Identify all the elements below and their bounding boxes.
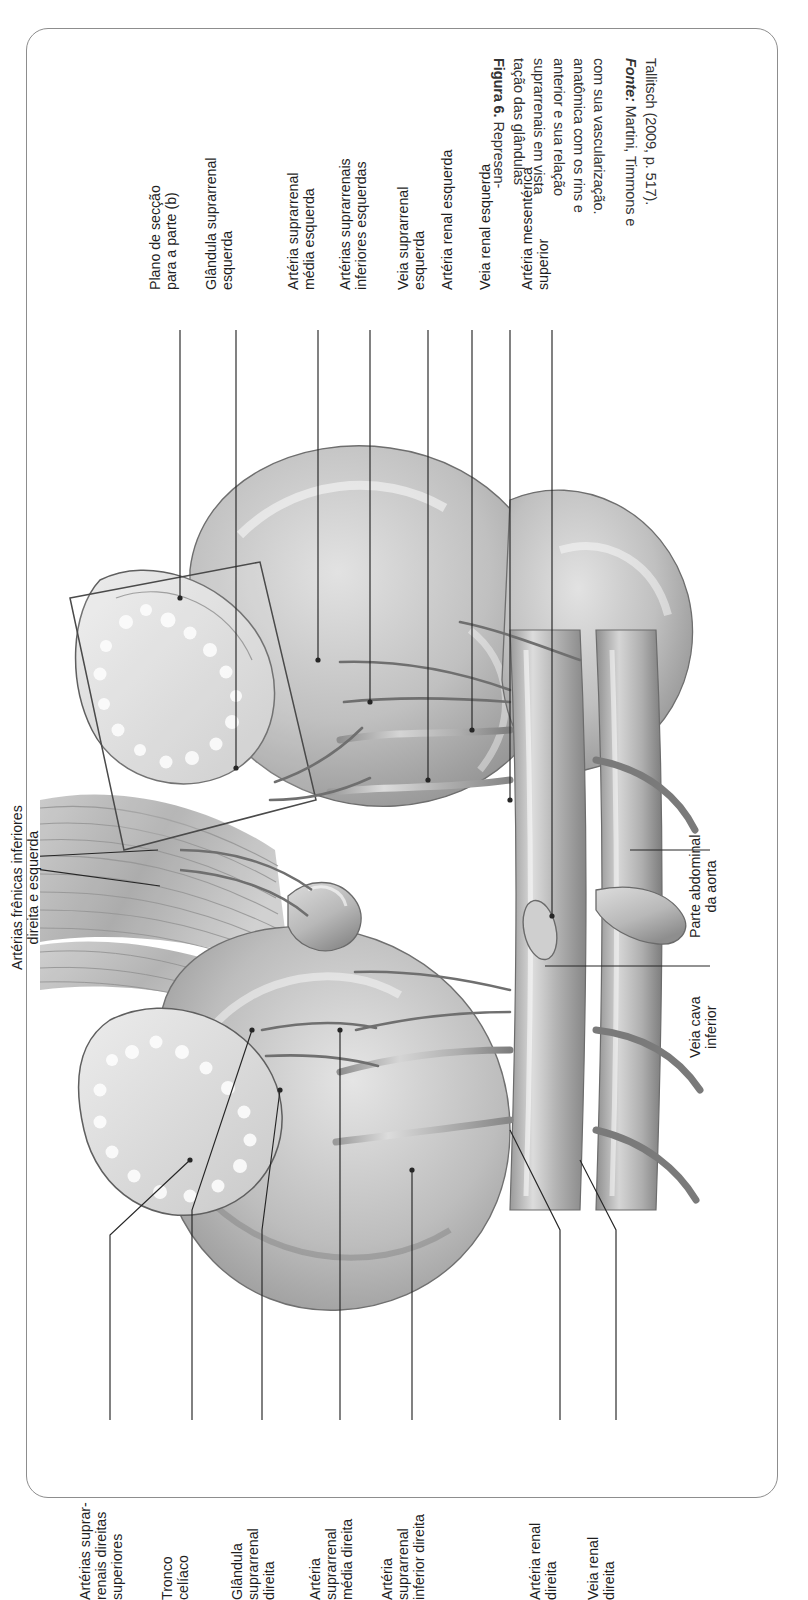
label-arterias-suprarrenais-direitas-superiores-line2: renais direitas bbox=[94, 1502, 110, 1600]
label-arterias-suprarrenais-direitas-superiores-line3: superiores bbox=[110, 1502, 126, 1600]
label-arteria-mesenterica-superior-line1: Artéria mesentérica bbox=[520, 167, 536, 290]
label-arteria-suprarrenal-media-direita-line2: suprarrenal bbox=[324, 1519, 340, 1600]
label-veia-renal-direita-line2: direita bbox=[602, 1537, 618, 1600]
source-line-1-rest: Martini, Timmons e bbox=[623, 102, 639, 226]
label-arteria-suprarrenal-media-esquerda-line2: média esquerda bbox=[302, 173, 318, 291]
label-arteria-suprarrenal-inferior-direita-line3: inferior direita bbox=[412, 1514, 428, 1600]
label-glandula-suprarrenal-esquerda-line1: Glândula suprarrenal bbox=[204, 158, 220, 291]
label-plano-seccao-line2: para a parte (b) bbox=[164, 185, 180, 290]
anatomy-illustration: Plano de secção para a parte (b) Glândul… bbox=[40, 330, 710, 1420]
label-arterias-suprarrenais-inferiores-esquerdas-line2: inferiores esquerdas bbox=[354, 158, 370, 290]
label-veia-suprarrenal-esquerda-line1: Veia suprarrenal bbox=[396, 187, 412, 290]
label-arteria-renal-esquerda-line1: Artéria renal esquerda bbox=[440, 150, 456, 290]
label-arteria-suprarrenal-inferior-direita: Artéria suprarrenal inferior direita bbox=[380, 1514, 428, 1600]
label-arteria-renal-esquerda: Artéria renal esquerda bbox=[440, 150, 456, 290]
label-arterias-frenicas-inferiores-line1: Artérias frênicas inferiores bbox=[10, 805, 26, 970]
label-tronco-celiaco-line1: Tronco bbox=[160, 1555, 176, 1600]
celiac-trunk bbox=[288, 883, 361, 951]
label-veia-renal-esquerda: Veia renal esquerda bbox=[478, 164, 494, 290]
label-arteria-suprarrenal-media-direita: Artéria suprarrenal média direita bbox=[308, 1519, 356, 1600]
label-arterias-suprarrenais-direitas-superiores-line1: Artérias suprar- bbox=[78, 1502, 94, 1600]
label-parte-abdominal-aorta: Parte abdominal da aorta bbox=[688, 835, 720, 938]
label-veia-renal-direita: Veia renal direita bbox=[586, 1537, 618, 1600]
label-arteria-mesenterica-superior-line2: superior bbox=[536, 167, 552, 290]
label-tronco-celiaco-line2: celíaco bbox=[176, 1555, 192, 1600]
label-veia-cava-inferior-line2: inferior bbox=[704, 996, 720, 1058]
label-arterias-frenicas-inferiores: Artérias frênicas inferiores direita e e… bbox=[10, 805, 42, 970]
label-glandula-suprarrenal-esquerda: Glândula suprarrenal esquerda bbox=[204, 158, 236, 291]
label-veia-cava-inferior-line1: Veia cava bbox=[688, 996, 704, 1058]
label-glandula-suprarrenal-direita: Glândula suprarrenal direita bbox=[230, 1528, 278, 1600]
label-arteria-suprarrenal-media-esquerda-line1: Artéria suprarrenal bbox=[286, 173, 302, 291]
label-tronco-celiaco: Tronco celíaco bbox=[160, 1555, 192, 1600]
label-veia-renal-esquerda-line1: Veia renal esquerda bbox=[478, 164, 494, 290]
label-arterias-suprarrenais-inferiores-esquerdas: Artérias suprarrenais inferiores esquerd… bbox=[338, 158, 370, 290]
caption-line-4: anterior e sua relação bbox=[551, 58, 566, 196]
label-glandula-suprarrenal-direita-line3: direita bbox=[262, 1528, 278, 1600]
label-veia-suprarrenal-esquerda: Veia suprarrenal esquerda bbox=[396, 187, 428, 290]
caption-line-5: anatômica com os rins e bbox=[571, 58, 586, 213]
label-arteria-suprarrenal-media-esquerda: Artéria suprarrenal média esquerda bbox=[286, 173, 318, 291]
label-plano-seccao-line1: Plano de secção bbox=[148, 185, 164, 290]
figure-number-label: Figura 6. bbox=[491, 58, 507, 117]
label-veia-suprarrenal-esquerda-line2: esquerda bbox=[412, 187, 428, 290]
label-arteria-renal-direita-line1: Artéria renal bbox=[528, 1523, 544, 1600]
label-arterias-suprarrenais-inferiores-esquerdas-line1: Artérias suprarrenais bbox=[338, 158, 354, 290]
label-parte-abdominal-aorta-line1: Parte abdominal bbox=[688, 835, 704, 938]
label-parte-abdominal-aorta-line2: da aorta bbox=[704, 835, 720, 938]
label-arteria-suprarrenal-media-direita-line1: Artéria bbox=[308, 1519, 324, 1600]
label-arterias-frenicas-inferiores-line2: direita e esquerda bbox=[26, 805, 42, 970]
source-label: Fonte: bbox=[623, 58, 639, 102]
label-glandula-suprarrenal-esquerda-line2: esquerda bbox=[220, 158, 236, 291]
source-line-1: Fonte: Martini, Timmons e bbox=[623, 58, 638, 226]
label-glandula-suprarrenal-direita-line2: suprarrenal bbox=[246, 1528, 262, 1600]
label-veia-cava-inferior: Veia cava inferior bbox=[688, 996, 720, 1058]
label-arteria-suprarrenal-media-direita-line3: média direita bbox=[340, 1519, 356, 1600]
label-arteria-renal-direita: Artéria renal direita bbox=[528, 1523, 560, 1600]
label-arteria-suprarrenal-inferior-direita-line2: suprarrenal bbox=[396, 1514, 412, 1600]
caption-line-6: com sua vascularização. bbox=[591, 58, 606, 214]
label-arteria-mesenterica-superior: Artéria mesentérica superior bbox=[520, 167, 552, 290]
label-glandula-suprarrenal-direita-line1: Glândula bbox=[230, 1528, 246, 1600]
label-arterias-suprarrenais-direitas-superiores: Artérias suprar- renais direitas superio… bbox=[78, 1502, 126, 1600]
caption-line-2: tação das glândulas bbox=[511, 58, 526, 185]
source-line-2: Tallitsch (2009, p. 517). bbox=[643, 58, 658, 205]
label-arteria-suprarrenal-inferior-direita-line1: Artéria bbox=[380, 1514, 396, 1600]
label-veia-renal-direita-line1: Veia renal bbox=[586, 1537, 602, 1600]
label-plano-seccao: Plano de secção para a parte (b) bbox=[148, 185, 180, 290]
label-arteria-renal-direita-line2: direita bbox=[544, 1523, 560, 1600]
adrenal-glands-kidneys-drawing bbox=[40, 330, 710, 1420]
